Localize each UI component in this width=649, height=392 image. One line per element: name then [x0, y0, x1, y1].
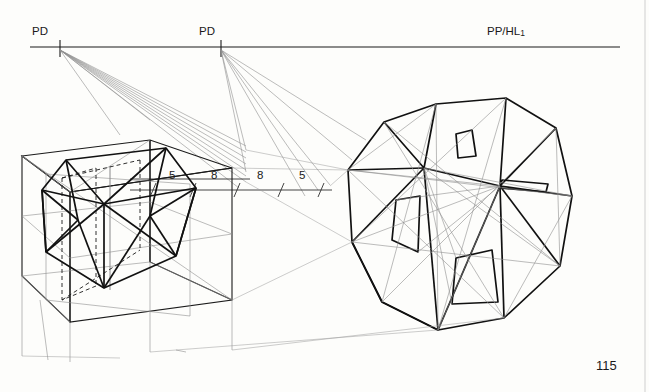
label-pd-right: PD — [199, 26, 215, 38]
left-cube-wireframe — [22, 140, 232, 362]
label-measure-8-right: 8 — [257, 170, 263, 182]
projection-rays-left-pd — [60, 50, 246, 188]
label-picture-plane: PP/HL1 — [487, 26, 525, 38]
label-picture-plane-subscript: 1 — [520, 28, 525, 38]
label-pd-left: PD — [32, 26, 48, 38]
label-picture-plane-text: PP/HL — [487, 25, 520, 37]
label-measure-5-left: 5 — [169, 170, 175, 182]
label-measure-5-right: 5 — [299, 170, 305, 182]
horizon-line-group — [30, 40, 620, 57]
label-measure-8-left: 8 — [211, 170, 217, 182]
page-number: 115 — [596, 359, 617, 372]
drawing-page: .c { stroke:#8f8f8f; stroke-width:0.6; f… — [0, 0, 649, 392]
right-polyhedron — [348, 98, 572, 330]
perspective-construction-diagram: .c { stroke:#8f8f8f; stroke-width:0.6; f… — [0, 0, 649, 392]
